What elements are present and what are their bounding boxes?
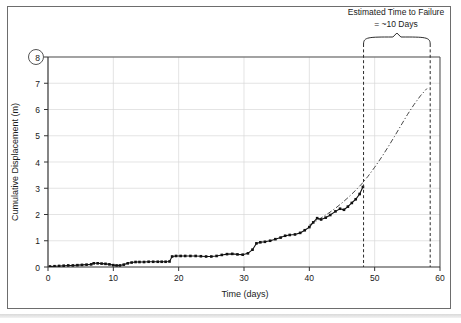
data-point-marker [126,262,129,265]
data-point-marker [236,253,239,256]
y-tick-label-3: 3 [35,184,40,194]
data-point-marker [334,210,337,213]
data-point-marker [58,265,61,268]
data-point-marker [134,261,137,264]
data-point-marker [184,255,187,258]
fitted-extrapolation-curve [309,89,427,226]
data-point-marker [67,264,70,267]
data-point-marker [312,221,315,224]
displacement-vs-time-chart: 8 7 6 5 4 3 2 1 0 0 10 20 30 40 50 60 Ti… [0,0,461,323]
data-point-marker [164,260,167,263]
data-point-marker [122,263,125,266]
data-point-marker [329,214,332,217]
figure-container: 8 7 6 5 4 3 2 1 0 0 10 20 30 40 50 60 Ti… [0,0,461,323]
data-point-marker [324,216,327,219]
y-tick-label-2: 2 [35,210,40,220]
data-point-marker [152,260,155,263]
x-tick-label-40: 40 [305,273,315,283]
data-point-marker [205,255,208,258]
y-tick-label-6: 6 [35,105,40,115]
y-tick-label-1: 1 [35,236,40,246]
y-tick-label-8: 8 [35,53,40,63]
y-tick-label-7: 7 [35,79,40,89]
data-point-marker [264,241,267,244]
annotation-line-1: Estimated Time to Failure [348,7,445,17]
data-point-marker [259,241,262,244]
data-point-marker [108,263,111,266]
data-point-marker [339,207,342,210]
data-point-marker [308,226,311,229]
event-lines [364,44,431,267]
x-tick-label-30: 30 [239,273,249,283]
x-tick-labels: 0 10 20 30 40 50 60 [46,273,445,283]
data-point-marker [112,264,115,267]
y-tick-label-5: 5 [35,131,40,141]
data-point-marker [115,264,118,267]
data-point-marker [231,253,234,256]
data-point-marker [251,248,254,251]
data-point-marker [351,202,354,205]
data-point-marker [284,234,287,237]
x-tick-label-20: 20 [174,273,184,283]
data-point-marker [194,255,197,258]
data-point-marker [299,232,302,235]
data-point-marker [147,260,150,263]
data-point-marker [279,236,282,239]
x-tick-label-60: 60 [435,273,445,283]
measured-displacement-curve [50,187,363,267]
data-point-marker [320,218,323,221]
data-point-marker [81,264,84,267]
data-point-marker [76,264,79,267]
y-tick-labels: 8 7 6 5 4 3 2 1 0 [35,53,40,273]
data-point-marker [354,198,357,201]
data-point-marker [130,261,133,264]
x-tick-label-0: 0 [46,273,51,283]
annotation-line-2: = ~10 Days [374,19,417,29]
data-point-marker [189,255,192,258]
page-bottom-band [0,314,461,318]
data-point-marker [92,262,95,265]
data-point-marker [90,263,93,266]
data-point-marker [220,254,223,257]
data-point-marker [215,255,218,258]
y-tick-label-0: 0 [35,263,40,273]
data-point-marker [347,205,350,208]
data-point-marker [143,261,146,264]
x-axis-label: Time (days) [221,289,268,299]
data-point-marker [171,255,174,258]
y-axis-label: Cumulative Displacement (m) [10,103,20,221]
data-point-marker [255,242,258,245]
data-point-marker [343,208,346,211]
data-point-marker [303,229,306,232]
x-tick-label-50: 50 [370,273,380,283]
data-point-marker [241,253,244,256]
data-point-marker [358,193,361,196]
data-point-marker [175,255,178,258]
data-point-marker [119,264,122,267]
data-point-marker [226,253,229,256]
data-point-marker [138,261,141,264]
data-point-marker [179,255,182,258]
x-tick-label-10: 10 [109,273,119,283]
data-point-marker [160,260,163,263]
data-point-marker [210,255,213,258]
data-point-marker [62,264,65,267]
data-point-marker [316,217,319,220]
data-point-marker [200,255,203,258]
data-point-marker [100,262,103,265]
data-point-marker [274,238,277,241]
data-point-marker [247,252,250,255]
y-tick-label-4: 4 [35,158,40,168]
time-to-failure-brace [364,33,431,44]
data-point-marker [72,264,75,267]
data-point-marker [168,260,171,263]
measured-data-point-markers [49,186,365,268]
data-point-marker [104,263,107,266]
data-point-marker [288,234,291,237]
data-point-marker [96,262,99,265]
data-point-marker [156,260,159,263]
data-point-marker [85,263,88,266]
data-point-marker [269,239,272,242]
data-point-marker [294,233,297,236]
